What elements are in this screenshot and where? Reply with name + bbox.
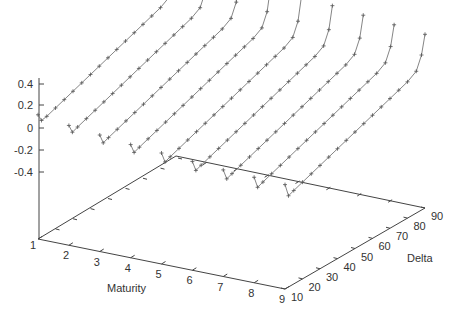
y-tick-label: 90 [431,210,443,222]
series-line [162,0,302,162]
y-tick-label: 50 [361,251,373,263]
x-tick-label: 1 [30,239,36,251]
series-line [223,15,363,179]
3d-line-chart: 123456789 102030405060708090 0.40.20-0.2… [0,0,452,311]
z-tick-label: 0.4 [18,78,33,90]
x-tick-label: 2 [63,249,69,261]
y-axis-title: Delta [407,252,434,264]
series-line [254,25,394,188]
y-tick-label: 30 [326,271,338,283]
y-tick-label: 10 [291,291,303,303]
data-curves [36,0,427,198]
series-line [131,0,271,152]
x-axis-title: Maturity [107,282,147,294]
y-tick-label: 40 [344,261,356,273]
x-tick-labels: 123456789 [30,239,285,305]
z-tick-label: -0.4 [14,166,33,178]
x-tick-label: 3 [94,256,100,268]
z-tick-label: 0.2 [18,99,33,111]
y-tick-label: 20 [309,281,321,293]
y-tick-label: 80 [414,220,426,232]
x-tick-label: 7 [217,281,223,293]
x-tick-label: 5 [156,268,162,280]
x-tick-label: 6 [186,274,192,286]
series-line [38,0,178,120]
x-tick-label: 4 [125,262,131,274]
series-line [285,34,425,195]
x-tick-label: 8 [248,287,254,299]
z-tick-label: 0 [27,122,33,134]
series-line [69,0,209,132]
series-line [192,6,332,171]
y-tick-label: 70 [396,230,408,242]
z-tick-labels: 0.40.20-0.2-0.4 [14,78,33,178]
y-tick-label: 60 [379,240,391,252]
z-tick-label: -0.2 [14,144,33,156]
x-tick-label: 9 [279,293,285,305]
